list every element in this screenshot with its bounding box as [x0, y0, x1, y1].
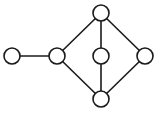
node-d — [93, 48, 109, 64]
node-c — [93, 5, 109, 21]
graph-diagram — [0, 0, 155, 113]
node-a — [4, 48, 20, 64]
node-e — [137, 48, 153, 64]
edge-layer — [12, 13, 145, 99]
edge-c-e — [101, 13, 145, 56]
edge-b-f — [57, 56, 101, 99]
edge-b-c — [57, 13, 101, 56]
node-b — [49, 48, 65, 64]
edge-e-f — [101, 56, 145, 99]
node-f — [93, 91, 109, 107]
